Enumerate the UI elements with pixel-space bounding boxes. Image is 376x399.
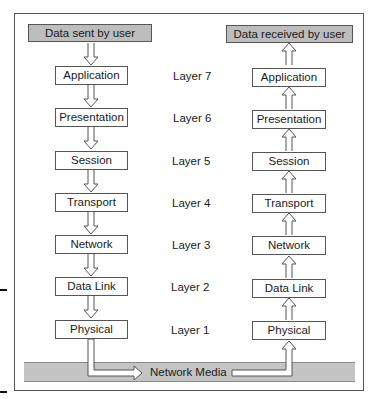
down-arrow-icon [84, 43, 98, 65]
down-arrow-icon [84, 296, 98, 318]
down-arrow-icon [84, 254, 98, 276]
up-arrow-icon [282, 256, 296, 278]
network-media-label: Network Media [150, 365, 227, 379]
up-arrow-icon [282, 87, 296, 109]
up-arrow-icon [282, 298, 296, 320]
down-arrow-icon [84, 212, 98, 234]
flow-arrows [0, 0, 376, 399]
up-arrow-icon [282, 213, 296, 235]
down-arrow-icon [84, 127, 98, 149]
up-arrow-icon [282, 171, 296, 193]
up-arrow-icon [282, 43, 296, 65]
down-arrow-icon [84, 85, 98, 107]
up-arrow-icon [282, 129, 296, 151]
down-arrow-icon [84, 170, 98, 192]
